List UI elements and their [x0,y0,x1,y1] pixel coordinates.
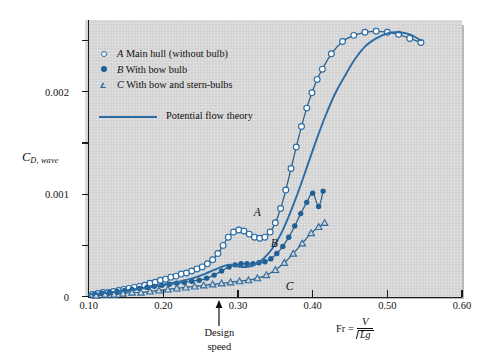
data-point-filled-circle [274,251,279,256]
design-speed-line1: Design [204,326,234,340]
data-point-open-circle [299,124,305,130]
data-point-filled-circle [320,188,325,193]
data-point-open-circle [293,144,299,150]
data-point-open-circle [267,229,273,235]
data-point-filled-circle [204,275,209,280]
data-point-open-circle [225,234,231,240]
data-point-filled-circle [310,190,315,195]
data-point-filled-circle [268,256,273,261]
data-point-filled-circle [211,272,216,277]
data-point-open-circle [319,66,325,72]
curve-label-c: C [286,280,294,292]
data-curves [0,0,490,360]
data-point-filled-circle [316,204,321,209]
data-point-open-triangle [321,220,328,226]
series-line [89,32,421,294]
data-point-open-circle [283,187,289,193]
data-point-filled-circle [286,234,291,239]
data-point-open-circle [340,39,346,45]
data-point-open-circle [314,77,320,83]
series-open-circle [90,28,424,297]
fr-denominator: Lg [357,330,374,341]
data-point-open-circle [309,90,315,96]
data-point-filled-circle [292,223,297,228]
data-point-filled-circle [304,200,309,205]
data-point-open-circle [362,29,368,35]
data-point-filled-circle [280,244,285,249]
data-point-open-circle [262,234,268,240]
data-point-open-triangle [315,224,322,230]
data-point-filled-circle [219,268,224,273]
x-axis-title: Fr = V Lg [336,316,373,341]
data-point-open-circle [304,105,310,111]
data-point-filled-circle [197,278,202,283]
data-point-open-circle [272,220,278,226]
data-point-open-circle [278,206,284,212]
curve-label-b: B [271,237,278,249]
fr-lhs: Fr = [336,323,354,334]
data-point-open-circle [351,32,357,38]
data-point-open-circle [210,257,216,263]
data-point-open-circle [220,242,226,248]
design-speed-label: Design speed [204,326,234,353]
data-point-filled-circle [298,211,303,216]
curve-label-a: A [254,206,261,218]
data-point-open-circle [407,36,413,42]
design-speed-line2: speed [204,340,234,354]
data-point-open-circle [288,166,294,172]
data-point-open-circle [215,251,221,257]
data-point-open-circle [328,51,334,57]
fr-numerator: V [358,316,372,327]
wave-drag-chart: 00.0010.002 0.100.200.300.400.500.60 CD,… [0,0,490,360]
series-none [89,32,421,294]
design-speed-arrow-icon [214,300,224,326]
data-point-open-circle [373,28,379,34]
data-point-open-triangle [263,272,270,278]
data-point-open-circle [205,261,211,267]
series-line [92,31,421,294]
